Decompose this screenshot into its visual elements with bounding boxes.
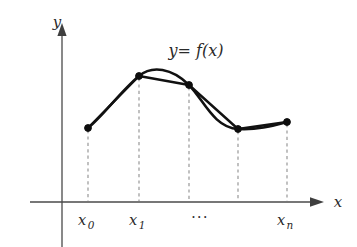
tick-label-xn: x n — [277, 212, 294, 231]
tick-label-x1: x 1 — [129, 212, 145, 231]
node-marker-x3 — [235, 126, 242, 133]
function-graph-figure: y x y= f(x) x 0 x 1 ··· x n — [0, 0, 357, 247]
y-axis-label: y — [52, 13, 62, 31]
x-axis-label: x — [334, 193, 343, 211]
node-markers-group — [85, 73, 291, 133]
node-marker-x1 — [136, 73, 143, 80]
tick-base-x1: x — [129, 212, 137, 228]
node-marker-xn — [284, 119, 291, 126]
function-curve — [88, 70, 287, 130]
x-axis-arrowhead — [310, 197, 324, 207]
tick-subscript-x1: 1 — [139, 219, 146, 231]
node-marker-x2 — [186, 82, 193, 89]
tick-label-x0: x 0 — [78, 212, 95, 231]
tick-base-xn: x — [277, 212, 285, 228]
tick-base-x0: x — [78, 212, 86, 228]
tick-subscript-x0: 0 — [88, 219, 95, 231]
tick-ellipsis: ··· — [191, 209, 209, 225]
function-label: y= f(x) — [168, 41, 224, 60]
tick-subscript-xn: n — [287, 219, 294, 231]
node-marker-x0 — [85, 125, 92, 132]
